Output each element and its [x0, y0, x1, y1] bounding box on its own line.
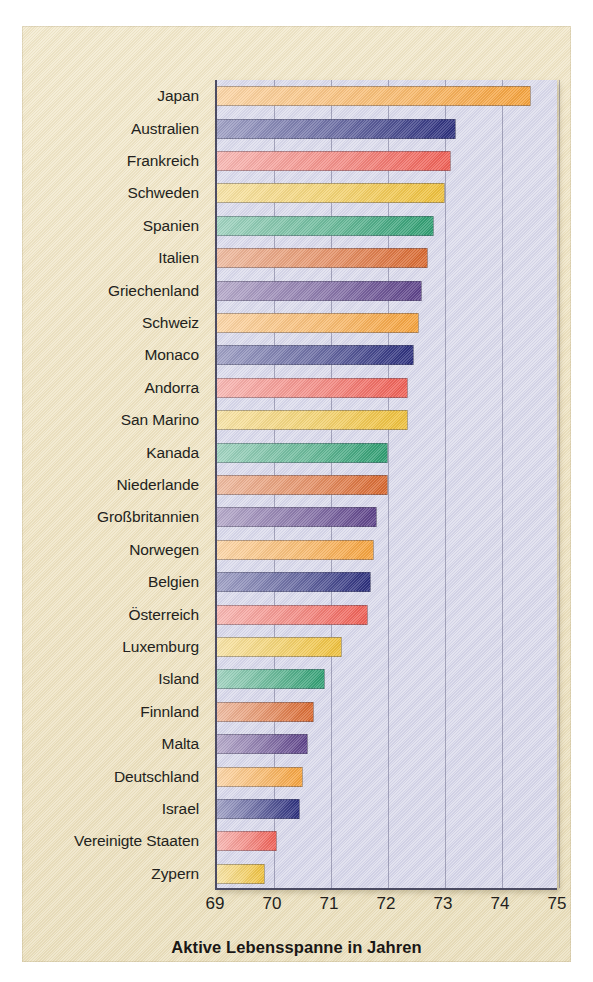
category-label: Italien	[158, 250, 199, 266]
category-label: Norwegen	[129, 542, 199, 558]
category-label: Island	[158, 671, 199, 687]
bar	[217, 507, 377, 527]
chart-figure: JapanAustralienFrankreichSchwedenSpanien…	[0, 0, 593, 982]
bar	[217, 475, 388, 495]
bar	[217, 572, 371, 592]
category-label: San Marino	[121, 412, 199, 428]
plot-area	[215, 80, 557, 890]
category-label: Niederlande	[117, 477, 200, 493]
category-label: Zypern	[151, 866, 199, 882]
bar	[217, 119, 456, 139]
category-label: Frankreich	[127, 153, 199, 169]
bar	[217, 734, 308, 754]
category-label: Spanien	[143, 218, 199, 234]
x-tick-label: 75	[548, 894, 567, 914]
x-tick-label: 69	[206, 894, 225, 914]
category-label: Japan	[157, 88, 199, 104]
bar	[217, 313, 419, 333]
gridline	[445, 80, 446, 888]
bar	[217, 669, 325, 689]
x-tick-label: 74	[491, 894, 510, 914]
x-axis-title: Aktive Lebensspanne in Jahren	[22, 938, 571, 957]
gridline	[502, 80, 503, 888]
category-axis-labels: JapanAustralienFrankreichSchwedenSpanien…	[22, 80, 207, 890]
bar	[217, 799, 300, 819]
category-label: Malta	[162, 736, 199, 752]
category-label: Australien	[131, 121, 199, 137]
category-label: Griechenland	[108, 283, 199, 299]
chart-paper-background: JapanAustralienFrankreichSchwedenSpanien…	[22, 26, 571, 962]
bar	[217, 540, 374, 560]
bar	[217, 605, 368, 625]
bar	[217, 831, 277, 851]
bar	[217, 637, 342, 657]
category-label: Andorra	[145, 380, 199, 396]
x-tick-label: 70	[263, 894, 282, 914]
bar	[217, 281, 422, 301]
bar	[217, 864, 265, 884]
category-label: Israel	[162, 801, 199, 817]
x-tick-label: 72	[377, 894, 396, 914]
gridline	[559, 80, 560, 888]
category-label: Schweden	[127, 185, 199, 201]
category-label: Kanada	[146, 445, 199, 461]
category-label: Deutschland	[114, 769, 199, 785]
bar	[217, 702, 314, 722]
category-label: Belgien	[148, 574, 199, 590]
category-label: Großbritannien	[97, 509, 199, 525]
x-axis-tick-labels: 69707172737475	[215, 894, 557, 920]
bar	[217, 378, 408, 398]
category-label: Vereinigte Staaten	[74, 833, 199, 849]
bar	[217, 151, 451, 171]
x-tick-label: 71	[320, 894, 339, 914]
category-label: Luxemburg	[122, 639, 199, 655]
bar	[217, 86, 531, 106]
bar	[217, 248, 428, 268]
category-label: Österreich	[129, 607, 200, 623]
category-label: Finnland	[140, 704, 199, 720]
bar	[217, 216, 434, 236]
bar	[217, 443, 388, 463]
x-tick-label: 73	[434, 894, 453, 914]
plot-inner	[217, 80, 557, 888]
bar	[217, 183, 445, 203]
bar	[217, 345, 414, 365]
category-label: Schweiz	[142, 315, 199, 331]
bar	[217, 410, 408, 430]
category-label: Monaco	[144, 347, 199, 363]
bar	[217, 767, 303, 787]
